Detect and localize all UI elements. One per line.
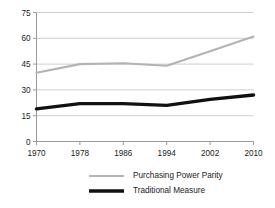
chart-container: 01530456075 197019781986199420022010 Pur… xyxy=(0,0,275,208)
series-line-traditional xyxy=(37,95,254,109)
legend-label-ppp: Purchasing Power Parity xyxy=(133,171,224,180)
y-axis-tick-labels: 01530456075 xyxy=(21,9,31,147)
y-tick-label-75: 75 xyxy=(21,9,31,18)
series-line-ppp xyxy=(37,37,254,73)
line-chart: 01530456075 197019781986199420022010 Pur… xyxy=(0,0,275,208)
x-axis xyxy=(37,142,254,146)
x-tick-label-1986: 1986 xyxy=(114,149,133,158)
x-tick-label-1970: 1970 xyxy=(27,149,46,158)
gridlines xyxy=(37,13,254,142)
legend-label-traditional: Traditional Measure xyxy=(133,186,205,195)
y-tick-label-0: 0 xyxy=(26,138,31,147)
y-tick-label-60: 60 xyxy=(21,34,31,43)
x-axis-tick-labels: 197019781986199420022010 xyxy=(27,149,263,158)
y-tick-label-15: 15 xyxy=(21,112,31,121)
y-axis xyxy=(33,13,37,142)
x-tick-label-1994: 1994 xyxy=(158,149,177,158)
data-series-lines xyxy=(37,37,254,109)
x-tick-label-2002: 2002 xyxy=(201,149,220,158)
chart-legend: Purchasing Power ParityTraditional Measu… xyxy=(89,171,224,195)
x-tick-label-2010: 2010 xyxy=(244,149,263,158)
y-tick-label-30: 30 xyxy=(21,86,31,95)
x-tick-label-1978: 1978 xyxy=(71,149,90,158)
y-tick-label-45: 45 xyxy=(21,60,31,69)
